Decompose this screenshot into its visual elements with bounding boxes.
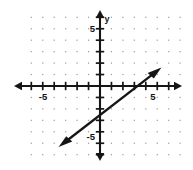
grid-dot — [77, 40, 78, 41]
grid-dot — [157, 74, 158, 75]
grid-dot — [145, 131, 146, 132]
grid-dot — [111, 28, 112, 29]
grid-dot — [168, 28, 169, 29]
grid-dot — [31, 131, 32, 132]
grid-dot — [122, 131, 123, 132]
grid-dot — [168, 17, 169, 18]
grid-dot — [134, 74, 135, 75]
plotted-line-segment — [65, 72, 156, 142]
grid-dot — [134, 28, 135, 29]
grid-dot — [180, 63, 181, 64]
grid-dot — [31, 108, 32, 109]
grid-dot — [88, 51, 89, 52]
grid-dot — [111, 74, 112, 75]
grid-dot — [31, 143, 32, 144]
grid-dot — [157, 63, 158, 64]
grid-dot — [54, 108, 55, 109]
grid-dot — [145, 51, 146, 52]
grid-dot — [54, 154, 55, 155]
grid-dot — [42, 74, 43, 75]
grid-dot — [168, 108, 169, 109]
grid-dot — [31, 51, 32, 52]
grid-dot — [65, 120, 66, 121]
grid-dot — [111, 40, 112, 41]
grid-dot — [42, 108, 43, 109]
grid-dot — [180, 28, 181, 29]
y-axis-tick-label-neg-5: -5 — [87, 131, 96, 142]
plotted-line-layer — [59, 68, 162, 148]
grid-dot — [31, 63, 32, 64]
x-axis-arrow-right — [174, 82, 182, 90]
grid-dot — [31, 97, 32, 98]
grid-dot — [88, 74, 89, 75]
grid-dot — [77, 108, 78, 109]
grid-dot — [54, 143, 55, 144]
grid-dot — [145, 108, 146, 109]
grid-dot — [168, 97, 169, 98]
grid-dot — [111, 63, 112, 64]
grid-dot — [88, 63, 89, 64]
grid-dot — [168, 154, 169, 155]
x-axis-tick-label-pos-5: 5 — [150, 91, 156, 102]
grid-dot — [145, 143, 146, 144]
grid-dot — [134, 97, 135, 98]
grid-dot — [42, 63, 43, 64]
grid-dot — [180, 17, 181, 18]
grid-dot — [122, 74, 123, 75]
grid-dot — [157, 40, 158, 41]
grid-dot — [122, 28, 123, 29]
grid-dot — [168, 131, 169, 132]
grid-dot — [42, 154, 43, 155]
grid-dot — [54, 120, 55, 121]
grid-dot — [65, 97, 66, 98]
grid-dot — [65, 63, 66, 64]
grid-dot — [180, 74, 181, 75]
grid-dot — [77, 120, 78, 121]
grid-dot — [88, 143, 89, 144]
grid-dot — [65, 108, 66, 109]
grid-dot — [65, 40, 66, 41]
grid-dot — [88, 40, 89, 41]
grid-dot — [134, 143, 135, 144]
grid-dot — [42, 17, 43, 18]
grid-dot — [145, 28, 146, 29]
grid-dot — [134, 154, 135, 155]
grid-dot — [180, 40, 181, 41]
grid-dot — [65, 74, 66, 75]
grid-dot — [122, 51, 123, 52]
grid-dot — [145, 74, 146, 75]
grid-dot — [111, 131, 112, 132]
grid-dot — [88, 17, 89, 18]
grid-dot — [31, 28, 32, 29]
grid-dot — [122, 108, 123, 109]
grid-dot — [65, 51, 66, 52]
grid-dot — [168, 120, 169, 121]
grid-dot — [65, 28, 66, 29]
grid-dot — [54, 63, 55, 64]
grid-dot — [42, 131, 43, 132]
grid-dot — [180, 120, 181, 121]
grid-dot — [31, 120, 32, 121]
grid-dot — [88, 154, 89, 155]
grid-dot — [180, 131, 181, 132]
grid-dot — [134, 40, 135, 41]
grid-dot — [122, 63, 123, 64]
grid-dot — [134, 108, 135, 109]
x-axis-tick-label-neg-5: -5 — [39, 91, 48, 102]
grid-dot — [145, 154, 146, 155]
axis-label-layer: y -5 5 5 -5 — [39, 14, 157, 142]
grid-dot — [54, 17, 55, 18]
grid-dot — [145, 97, 146, 98]
grid-dot — [111, 120, 112, 121]
grid-dot — [168, 40, 169, 41]
grid-dot — [77, 63, 78, 64]
grid-dot — [111, 51, 112, 52]
grid-dot — [77, 28, 78, 29]
grid-dot — [134, 120, 135, 121]
grid-dot — [180, 154, 181, 155]
grid-dot — [77, 154, 78, 155]
grid-dot — [31, 154, 32, 155]
grid-dot — [157, 120, 158, 121]
x-axis-arrow-left — [14, 82, 22, 90]
grid-dot — [77, 143, 78, 144]
